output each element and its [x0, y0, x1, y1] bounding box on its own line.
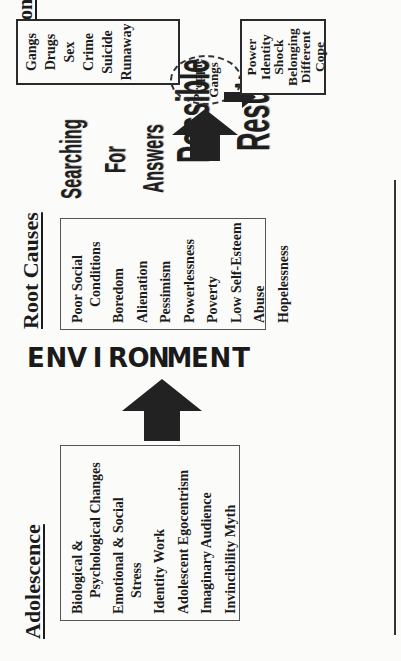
adolescence-heading: Adolescence	[20, 524, 46, 639]
root-cause-item: Boredom	[110, 225, 128, 323]
environment-letter: I	[93, 343, 103, 373]
environment-letters: ENVIRONMENT	[24, 338, 254, 378]
answers-label: Answers	[138, 124, 168, 193]
highlight-item: Gangs	[206, 57, 222, 103]
adolescence-item: Stress	[128, 452, 146, 614]
for-label: For	[100, 146, 130, 173]
adolescence-item: Psychological Changes	[87, 452, 105, 614]
adolescence-item: Biological &	[69, 452, 87, 614]
adolescence-item: Imaginary Audience	[198, 452, 216, 614]
option-item: Drugs	[41, 23, 60, 81]
option-item: Sex	[60, 23, 79, 81]
root-cause-item: Poverty	[204, 225, 222, 323]
environment-label: ENVIRONMENT	[24, 338, 254, 378]
result-item: Shock	[272, 23, 286, 91]
option-item: Crime	[79, 23, 98, 81]
root-causes-box: Poor Social Conditions Boredom Alienatio…	[60, 218, 266, 330]
options-box: Gangs Drugs Sex Crime Suicide Runaway	[16, 19, 180, 85]
adolescence-item: Invincibility Myth	[222, 452, 240, 614]
root-cause-item: Alienation	[134, 225, 152, 323]
results-box: Power Identity Shock Belonging Different…	[240, 19, 326, 95]
environment-letter: O	[127, 343, 149, 373]
adolescence-item: Emotional & Social	[110, 452, 128, 614]
option-item: Runaway	[117, 23, 136, 81]
root-cause-item: Pessimism	[157, 225, 175, 323]
result-item: Identity	[259, 23, 273, 91]
arrow-right-icon	[122, 379, 202, 441]
root-cause-item: Hopelessness	[275, 225, 293, 323]
root-cause-item: Poor Social	[69, 225, 87, 323]
root-cause-item: Conditions	[87, 225, 105, 323]
arrow-right-icon	[172, 109, 238, 161]
environment-letter: R	[108, 343, 128, 373]
adolescence-box: Biological & Psychological Changes Emoti…	[60, 445, 240, 621]
result-item: Belonging	[286, 23, 300, 91]
result-item: Power	[245, 23, 259, 91]
environment-letter: E	[191, 343, 209, 373]
adolescence-item: Identity Work	[151, 452, 169, 614]
searching-label: Searching	[56, 119, 86, 199]
adolescence-item: Adolescent Egocentrism	[175, 452, 193, 614]
result-item: Different	[299, 23, 313, 91]
root-cause-item: Powerlessness	[181, 225, 199, 323]
root-cause-item: Abuse	[251, 225, 269, 323]
option-item: Gangs	[22, 23, 41, 81]
environment-letter: N	[46, 343, 68, 373]
divider-rule	[394, 180, 396, 635]
diagram-canvas: Adolescence Biological & Psychological C…	[0, 0, 401, 661]
root-causes-heading: Root Causes	[18, 212, 44, 329]
root-cause-item: Low Self-Esteem	[228, 225, 246, 323]
environment-letter: N	[210, 343, 232, 373]
environment-letter: T	[232, 343, 250, 373]
environment-letter: V	[67, 343, 87, 373]
environment-letter: M	[167, 343, 193, 373]
option-item: Suicide	[98, 23, 117, 81]
result-item: Cope	[313, 23, 327, 91]
highlight-item: Preppie	[190, 57, 206, 103]
environment-letter: E	[27, 343, 45, 373]
